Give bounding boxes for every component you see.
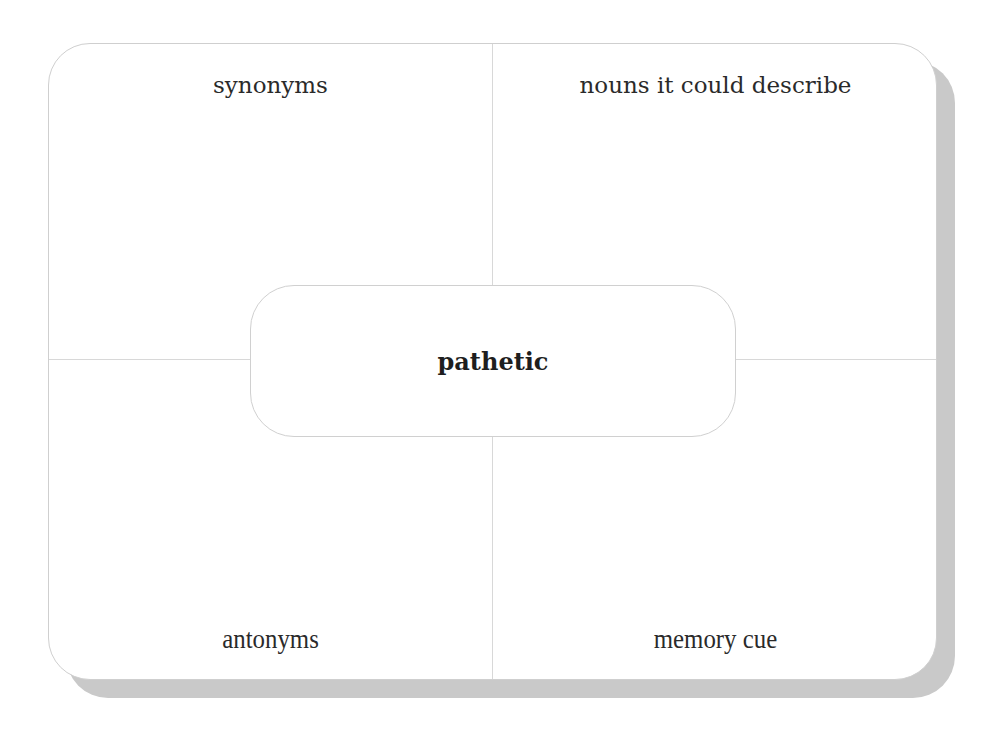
quadrant-label-nouns: nouns it could describe bbox=[493, 72, 937, 98]
center-word: pathetic bbox=[438, 347, 549, 376]
center-word-box: pathetic bbox=[250, 285, 736, 437]
quadrant-label-memory-cue: memory cue bbox=[511, 624, 920, 655]
quadrant-label-synonyms: synonyms bbox=[49, 72, 492, 98]
quadrant-label-antonyms: antonyms bbox=[67, 624, 475, 655]
